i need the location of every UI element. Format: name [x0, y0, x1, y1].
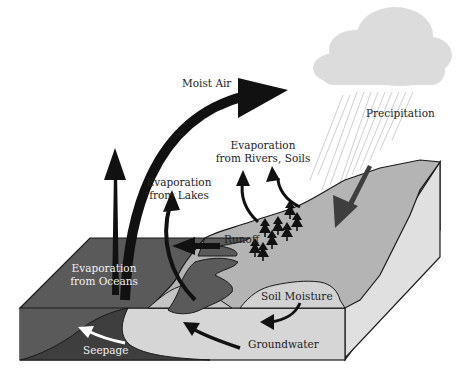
cloud-icon — [313, 7, 452, 86]
label-evap-rivers-2: from Rivers, Soils — [216, 152, 311, 164]
label-moist-air: Moist Air — [182, 77, 232, 89]
label-groundwater: Groundwater — [248, 338, 320, 350]
label-soil-moisture: Soil Moisture — [261, 290, 333, 302]
label-evap-lakes-1: Evaporation — [147, 176, 212, 188]
label-evap-oceans-2: from Oceans — [70, 275, 138, 287]
label-evap-lakes-2: from Lakes — [149, 189, 209, 201]
label-evap-oceans-1: Evaporation — [72, 262, 137, 274]
label-seepage: Seepage — [83, 344, 129, 356]
label-evap-rivers-1: Evaporation — [231, 139, 296, 151]
water-cycle-diagram: Moist Air Precipitation Evaporation from… — [0, 0, 459, 379]
label-runoff: Runoff — [224, 233, 261, 245]
label-precipitation: Precipitation — [366, 107, 435, 119]
